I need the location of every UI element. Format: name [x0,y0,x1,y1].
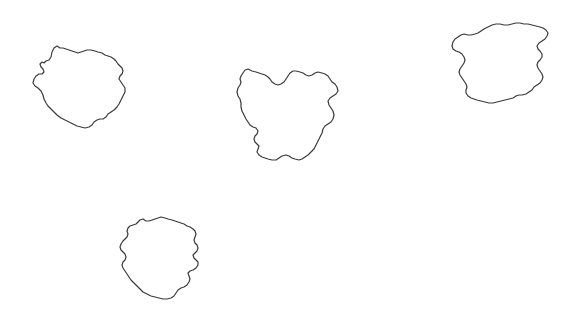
blob-contours-svg [0,0,566,320]
image-canvas [0,0,566,320]
canvas-background [0,0,566,320]
